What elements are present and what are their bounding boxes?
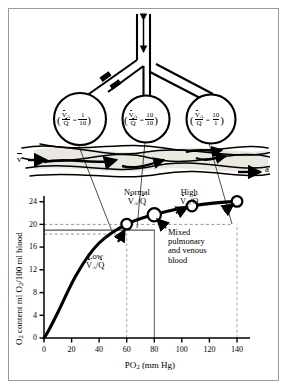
x-tick-40: 40	[89, 345, 109, 354]
venous-blood-label: v	[17, 154, 22, 164]
x-tick-100: 100	[172, 345, 192, 354]
x-tick-80: 80	[144, 345, 164, 354]
airway-tree	[86, 14, 213, 104]
alveolus-normal-ratio: ( VA Q = 10 10 )	[124, 112, 158, 127]
annotation-low-line2: VA/Q	[86, 261, 104, 270]
y-axis-title: O2 content ml O2/100 ml blood	[14, 232, 24, 345]
x-tick-120: 120	[199, 345, 219, 354]
capillary-network	[22, 144, 274, 177]
v-dot-high: V	[195, 112, 200, 119]
dissociation-curve	[44, 201, 237, 338]
equals-high: =	[204, 116, 211, 124]
q-plain-high: Q	[196, 119, 201, 127]
point-low-va-q	[121, 219, 132, 230]
normal-denominator: 10	[145, 119, 154, 127]
arterial-blood-label: a	[265, 164, 269, 174]
equals-low: =	[71, 116, 78, 124]
annotation-mixed-line4: blood	[168, 256, 206, 265]
y-tick-20: 20	[16, 220, 37, 229]
x-tick-0: 0	[34, 345, 54, 354]
equals-normal: =	[138, 116, 145, 124]
alveolus-high-ratio: ( VA Q = 10 1 )	[190, 112, 224, 127]
annotation-mixed-blood: Mixed pulmonary and venous blood	[168, 228, 206, 265]
x-tick-60: 60	[117, 345, 137, 354]
venous-symbol: v	[17, 154, 22, 164]
q-dot-low: Q	[63, 120, 68, 127]
normal-numerator: 10	[145, 112, 154, 119]
q-dot-normal: Q	[130, 120, 135, 127]
x-tick-140: 140	[227, 345, 247, 354]
plot-area	[40, 196, 251, 343]
high-denominator: 1	[213, 119, 219, 127]
x-axis-title: PO2 (mm Hg)	[95, 360, 205, 370]
annotation-low-va-q: Low VA/Q	[86, 252, 104, 271]
annotation-normal-va-q: Normal VA/Q	[124, 188, 150, 207]
annotation-high-line2: VA/Q	[180, 197, 198, 206]
y-tick-24: 24	[16, 197, 37, 206]
x-tick-20: 20	[62, 345, 82, 354]
annotation-normal-line2: VA/Q	[124, 197, 150, 206]
arterial-symbol: a	[265, 164, 269, 174]
low-denominator: 10	[78, 119, 87, 127]
figure-root: ( VA Q = 1 10 ) ( VA Q = 10 10 ) ( VA Q …	[0, 0, 287, 389]
low-numerator: 1	[80, 112, 86, 119]
high-numerator: 10	[211, 112, 220, 119]
annotation-high-va-q: High VA/Q	[180, 188, 198, 207]
alveolus-low-ratio: ( VA Q = 1 10 )	[57, 112, 91, 127]
